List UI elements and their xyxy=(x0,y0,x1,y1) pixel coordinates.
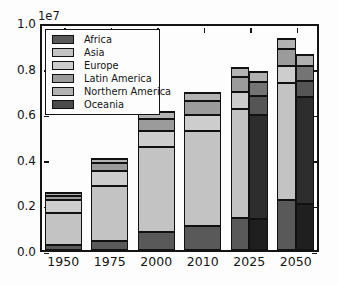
population-stacked-bar-figure: 1e7 0.00.20.40.60.81.0 19501975200020102… xyxy=(0,0,338,285)
legend-swatch xyxy=(52,61,74,70)
bar-segment xyxy=(277,38,296,40)
bar-segment xyxy=(45,192,82,194)
legend-item: Asia xyxy=(51,46,159,59)
y-tick-label: 0.2 xyxy=(6,200,36,212)
bar-segment xyxy=(231,109,250,218)
x-tick-label: 2000 xyxy=(133,255,179,269)
bar-segment xyxy=(91,171,128,186)
bar-segment xyxy=(249,82,268,96)
bar-segment xyxy=(277,66,296,82)
bar-segment xyxy=(231,67,250,69)
bar-segment xyxy=(91,186,128,240)
bar-segment xyxy=(296,54,315,56)
tick-mark xyxy=(297,28,299,33)
bar-segment xyxy=(249,71,268,73)
legend-swatch xyxy=(52,35,74,44)
legend-item: Africa xyxy=(51,33,159,46)
bar-segment xyxy=(296,97,315,205)
bar-segment xyxy=(138,147,175,231)
bar-segment xyxy=(277,39,296,49)
bar-segment xyxy=(249,96,268,115)
legend-label: Latin America xyxy=(84,73,152,85)
bar-segment xyxy=(184,93,221,101)
bar-segment xyxy=(91,163,128,170)
legend-swatch xyxy=(52,87,74,96)
legend-item: Northern America xyxy=(51,85,159,98)
bar-segment xyxy=(231,92,250,109)
x-tick-label: 2010 xyxy=(180,255,226,269)
bar-segment xyxy=(296,81,315,97)
bar-segment xyxy=(45,196,82,200)
bar-segment xyxy=(277,83,296,200)
legend-item: Latin America xyxy=(51,72,159,85)
bar-segment xyxy=(231,77,250,92)
bar-segment xyxy=(45,200,82,212)
bar-segment xyxy=(249,115,268,219)
y-tick-label: 0.0 xyxy=(6,246,36,258)
legend-swatch xyxy=(52,74,74,83)
y-axis-offset-label: 1e7 xyxy=(38,9,60,23)
bar-segment xyxy=(184,131,221,226)
tick-mark xyxy=(250,28,252,33)
x-tick-label: 1975 xyxy=(87,255,133,269)
bar-segment xyxy=(231,68,250,77)
x-tick-label: 2025 xyxy=(226,255,272,269)
bar-segment xyxy=(184,226,221,250)
bar-segment xyxy=(296,204,315,250)
bar-segment xyxy=(296,55,315,66)
bar-segment xyxy=(184,92,221,94)
bar-segment xyxy=(277,200,296,250)
legend: AfricaAsiaEuropeLatin AmericaNorthern Am… xyxy=(45,29,160,115)
bar-segment xyxy=(91,158,128,160)
legend-label: Northern America xyxy=(84,86,171,98)
bar-segment xyxy=(184,101,221,114)
bar-segment xyxy=(277,49,296,66)
legend-item: Europe xyxy=(51,59,159,72)
bar-segment xyxy=(91,241,128,250)
bar-segment xyxy=(249,219,268,250)
legend-swatch xyxy=(52,100,74,109)
legend-label: Asia xyxy=(84,47,105,59)
tick-mark xyxy=(44,161,49,163)
tick-mark xyxy=(312,25,317,27)
x-tick-label: 2050 xyxy=(273,255,319,269)
bar-segment xyxy=(45,213,82,245)
y-tick-label: 1.0 xyxy=(6,18,36,30)
bar-segment xyxy=(296,66,315,81)
tick-mark xyxy=(44,25,49,27)
legend-item: Oceania xyxy=(51,98,159,111)
bar-segment xyxy=(138,119,175,131)
tick-mark xyxy=(44,116,49,118)
y-tick-label: 0.8 xyxy=(6,64,36,76)
bar-segment xyxy=(138,232,175,250)
x-tick-label: 1950 xyxy=(40,255,86,269)
bar-segment xyxy=(184,115,221,132)
legend-label: Europe xyxy=(84,60,118,72)
tick-mark xyxy=(204,28,206,33)
bar-segment xyxy=(249,72,268,82)
bar-segment xyxy=(138,131,175,148)
bar-segment xyxy=(231,218,250,250)
bar-segment xyxy=(45,245,82,250)
legend-label: Oceania xyxy=(84,99,124,111)
tick-mark xyxy=(312,253,317,255)
y-tick-label: 0.4 xyxy=(6,155,36,167)
y-tick-label: 0.6 xyxy=(6,109,36,121)
legend-swatch xyxy=(52,48,74,57)
legend-label: Africa xyxy=(84,34,112,46)
